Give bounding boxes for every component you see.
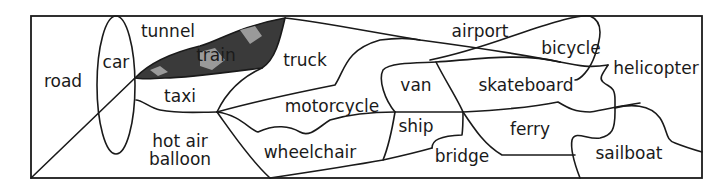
label-car: car: [103, 52, 130, 72]
transport-word-map: road car tunnel train taxi hot air ballo…: [0, 0, 711, 189]
label-hot-air: hot air: [152, 131, 207, 151]
van-skateboard-divider: [436, 62, 463, 112]
car-ellipse: [97, 16, 135, 154]
label-sailboat: sailboat: [596, 143, 663, 163]
label-motorcycle: motorcycle: [285, 96, 380, 116]
label-wheelchair: wheelchair: [264, 142, 357, 162]
label-airport: airport: [452, 21, 509, 41]
label-van: van: [400, 75, 431, 95]
label-ferry: ferry: [510, 119, 550, 139]
label-truck: truck: [283, 50, 327, 70]
label-road: road: [44, 71, 82, 91]
road-diagonal-line: [31, 78, 135, 178]
label-bridge: bridge: [435, 146, 490, 166]
ship-left-boundary: [383, 112, 395, 160]
label-taxi: taxi: [164, 86, 196, 106]
label-tunnel: tunnel: [141, 21, 195, 41]
skateboard-ferry-boundary: [463, 102, 640, 112]
label-balloon: balloon: [149, 149, 211, 169]
label-bicycle: bicycle: [541, 38, 600, 58]
label-train: train: [196, 45, 236, 65]
label-ship: ship: [398, 116, 433, 136]
label-helicopter: helicopter: [613, 58, 698, 78]
label-skateboard: skateboard: [478, 75, 573, 95]
ship-right-boundary: [432, 112, 463, 148]
bicycle-skateboard-boundary: [560, 62, 608, 66]
